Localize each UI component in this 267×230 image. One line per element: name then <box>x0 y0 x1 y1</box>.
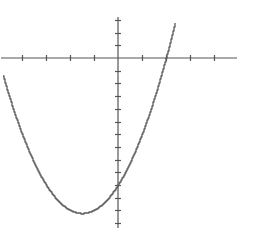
parabola-curve <box>3 23 175 214</box>
y-axis <box>115 17 121 228</box>
parabola-plot <box>0 0 267 230</box>
